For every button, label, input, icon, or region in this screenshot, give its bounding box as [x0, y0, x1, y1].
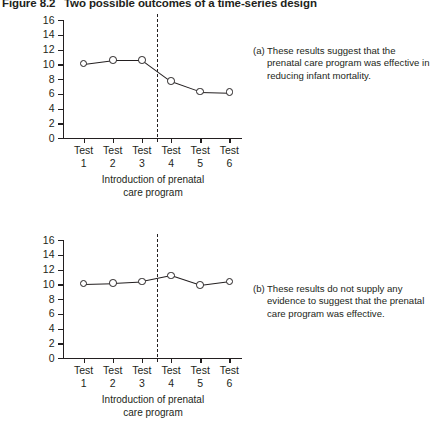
side-caption-b-marker: (b) [253, 283, 265, 295]
x-tick-b-1 [84, 358, 85, 363]
x-axis-caption-line1: Introduction of prenatal [58, 394, 248, 407]
x-tick-b-2 [113, 358, 114, 363]
y-tick-label: 16 [43, 13, 55, 27]
y-tick-label: 8 [49, 72, 55, 86]
x-tick-label-word: Test [206, 144, 252, 157]
data-point-b-1 [80, 280, 88, 288]
y-tick-b-0: 0 [58, 358, 64, 359]
data-point-a-6 [226, 88, 234, 96]
data-point-a-4 [167, 77, 175, 85]
data-point-a-5 [196, 88, 204, 96]
x-tick-label-number: 6 [206, 157, 252, 170]
x-tick-a-3 [142, 138, 143, 143]
y-tick-label: 0 [49, 351, 55, 365]
data-point-b-2 [109, 279, 117, 287]
x-tick-a-5 [200, 138, 201, 143]
data-point-a-3 [138, 56, 146, 64]
y-tick-label: 4 [49, 101, 55, 115]
x-axis-caption-line1: Introduction of prenatal [58, 174, 248, 187]
x-tick-label-word: Test [206, 364, 252, 377]
y-tick-label: 12 [43, 262, 55, 276]
y-tick-label: 6 [49, 86, 55, 100]
y-tick-a-6: 6 [58, 94, 64, 95]
x-tick-a-6 [229, 138, 230, 143]
y-tick-a-12: 12 [58, 50, 64, 51]
side-caption-a: (a)These results suggest that the prenat… [267, 45, 431, 82]
side-caption-a-text: These results suggest that the prenatal … [267, 45, 429, 81]
x-tick-a-4 [171, 138, 172, 143]
plot-area-b: 0246810121416 [63, 240, 238, 358]
y-tick-label: 12 [43, 42, 55, 56]
x-axis-line-a [59, 138, 242, 139]
y-tick-a-16: 16 [58, 20, 64, 21]
y-tick-label: 2 [49, 116, 55, 130]
y-tick-a-0: 0 [58, 138, 64, 139]
data-point-b-6 [226, 278, 234, 286]
x-tick-b-4 [171, 358, 172, 363]
x-axis-line-b [59, 358, 242, 359]
x-axis-caption-line2: care program [58, 187, 248, 200]
x-tick-label-b-6: Test6 [206, 364, 252, 390]
x-axis-caption-a: Introduction of prenatal care program [58, 174, 248, 199]
data-point-b-3 [138, 278, 146, 286]
y-tick-label: 10 [43, 57, 55, 71]
x-tick-a-1 [84, 138, 85, 143]
chart-panel-a: Infant deaths per 1000 births 0246810121… [0, 14, 434, 219]
y-tick-label: 16 [43, 233, 55, 247]
y-tick-b-12: 12 [58, 270, 64, 271]
x-axis-caption-b: Introduction of prenatal care program [58, 394, 248, 419]
y-tick-label: 10 [43, 277, 55, 291]
chart-panel-b: Infant deaths per 1000 births 0246810121… [0, 234, 434, 437]
y-tick-a-8: 8 [58, 79, 64, 80]
side-caption-a-marker: (a) [253, 45, 265, 57]
data-point-b-4 [167, 272, 175, 280]
x-tick-labels-b: Test1Test2Test3Test4Test5Test6 [63, 364, 243, 394]
y-tick-label: 6 [49, 306, 55, 320]
y-tick-a-4: 4 [58, 109, 64, 110]
y-tick-b-4: 4 [58, 329, 64, 330]
plot-area-a: 0246810121416 [63, 20, 238, 138]
y-tick-b-6: 6 [58, 314, 64, 315]
y-tick-a-10: 10 [58, 64, 64, 65]
x-tick-a-2 [113, 138, 114, 143]
data-point-b-5 [196, 281, 204, 289]
intervention-dashed-line-a [157, 14, 158, 142]
x-tick-b-6 [229, 358, 230, 363]
figure-title-text: Two possible outcomes of a time-series d… [64, 0, 317, 9]
x-tick-b-3 [142, 358, 143, 363]
y-tick-b-16: 16 [58, 240, 64, 241]
y-tick-a-2: 2 [58, 123, 64, 124]
y-tick-b-10: 10 [58, 284, 64, 285]
y-tick-label: 0 [49, 131, 55, 145]
figure-title: Figure 8.2Two possible outcomes of a tim… [2, 0, 432, 9]
y-tick-b-8: 8 [58, 299, 64, 300]
y-tick-b-14: 14 [58, 255, 64, 256]
y-tick-label: 4 [49, 321, 55, 335]
y-tick-b-2: 2 [58, 343, 64, 344]
figure-number: Figure 8.2 [2, 0, 64, 9]
data-point-a-2 [109, 56, 117, 64]
y-tick-a-14: 14 [58, 35, 64, 36]
x-tick-labels-a: Test1Test2Test3Test4Test5Test6 [63, 144, 243, 174]
x-tick-label-number: 6 [206, 377, 252, 390]
x-tick-label-a-6: Test6 [206, 144, 252, 170]
x-axis-caption-line2: care program [58, 407, 248, 420]
x-tick-b-5 [200, 358, 201, 363]
y-tick-label: 14 [43, 27, 55, 41]
y-tick-label: 2 [49, 336, 55, 350]
side-caption-b: (b)These results do not supply any evide… [267, 283, 431, 320]
data-point-a-1 [80, 60, 88, 68]
y-tick-label: 8 [49, 292, 55, 306]
intervention-dashed-line-b [157, 234, 158, 362]
y-tick-label: 14 [43, 247, 55, 261]
side-caption-b-text: These results do not supply any evidence… [267, 283, 424, 319]
